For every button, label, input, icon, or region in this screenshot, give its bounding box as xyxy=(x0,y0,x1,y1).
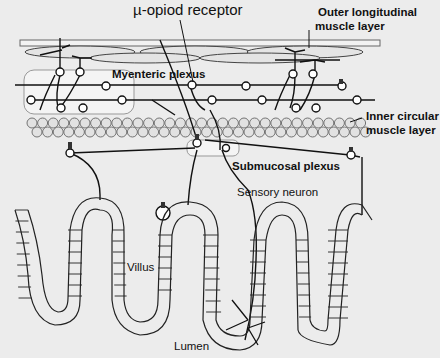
mu-opioid-receptor-label: µ-opiod receptor xyxy=(133,2,243,19)
villus-label: Villus xyxy=(127,261,154,274)
outer-longitudinal-label-line2: muscle layer xyxy=(315,20,385,33)
diagram-canvas xyxy=(0,0,440,358)
gut-wall-diagram: µ-opiod receptor Outer longitudinal musc… xyxy=(0,0,440,358)
myenteric-plexus-label: Myenteric plexus xyxy=(112,68,205,81)
villi-cell-dividers xyxy=(15,210,348,318)
lumen-label: Lumen xyxy=(174,340,209,353)
submucosal-plexus-label: Submucosal plexus xyxy=(232,160,340,173)
inner-circular-label-line1: Inner circular xyxy=(366,110,439,123)
outer-longitudinal-label-line1: Outer longitudinal xyxy=(318,6,417,19)
inner-circular-label-line2: muscle layer xyxy=(366,124,436,137)
sensory-neuron-label: Sensory neuron xyxy=(237,186,318,199)
